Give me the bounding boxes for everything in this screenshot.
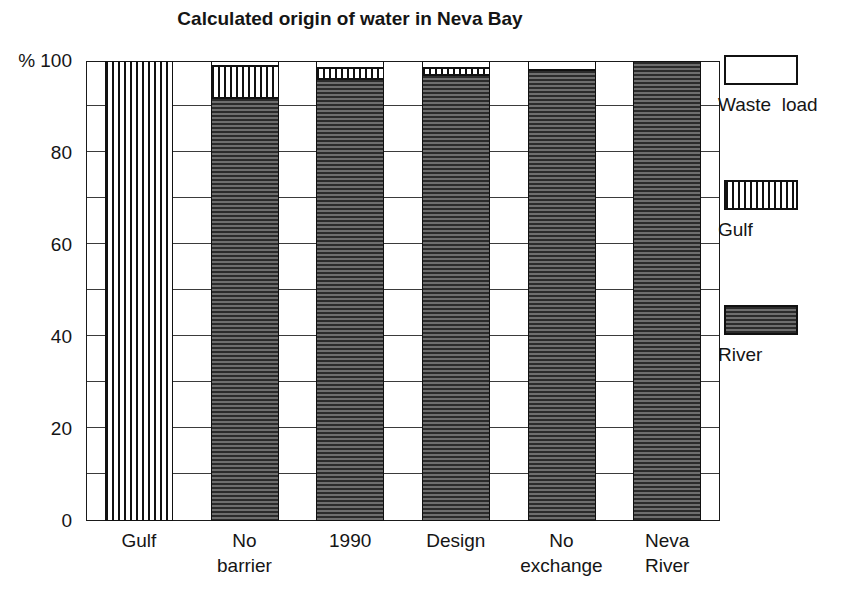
x-tick-line: No <box>192 528 298 553</box>
x-tick-line: Gulf <box>86 528 192 553</box>
legend-item-gulf[interactable]: Gulf <box>718 180 858 241</box>
legend-item-waste-load[interactable]: Waste load <box>718 55 858 116</box>
bar-1990[interactable] <box>316 61 384 521</box>
bar-segment-river <box>422 75 490 521</box>
legend-label: Waste load <box>718 94 858 116</box>
bar-segment-river <box>528 70 596 521</box>
x-tick-line: Neva <box>614 528 720 553</box>
bar-segment-gulf <box>316 68 384 80</box>
bar-segment-waste-load <box>528 61 596 70</box>
y-tick-label-60: 60 <box>51 234 72 256</box>
legend-label: Gulf <box>718 219 858 241</box>
bar-segment-river <box>633 61 701 521</box>
y-tick-label-20: 20 <box>51 418 72 440</box>
bar-neva-river[interactable] <box>633 61 701 521</box>
x-tick-label-design: Design <box>403 528 509 553</box>
chart-title: Calculated origin of water in Neva Bay <box>0 8 700 30</box>
bar-segment-gulf <box>105 61 173 521</box>
y-axis: 020406080% 100 <box>0 61 80 521</box>
bar-segment-waste-load <box>316 61 384 68</box>
y-tick-label-100: % 100 <box>18 50 72 72</box>
legend-item-river[interactable]: River <box>718 305 858 366</box>
legend-label: River <box>718 344 858 366</box>
legend: Waste loadGulfRiver <box>718 55 858 375</box>
legend-swatch-waste-load <box>724 55 798 85</box>
bar-segment-river <box>211 98 279 521</box>
bar-no-exchange[interactable] <box>528 61 596 521</box>
y-tick-label-40: 40 <box>51 326 72 348</box>
x-tick-line: exchange <box>509 553 615 578</box>
bar-segment-waste-load <box>211 61 279 66</box>
x-axis: GulfNobarrier1990DesignNoexchangeNevaRiv… <box>86 528 720 598</box>
x-tick-line: barrier <box>192 553 298 578</box>
x-tick-line: Design <box>403 528 509 553</box>
bar-design[interactable] <box>422 61 490 521</box>
legend-swatch-gulf <box>724 180 798 210</box>
x-tick-label-gulf: Gulf <box>86 528 192 553</box>
x-tick-line: No <box>509 528 615 553</box>
bar-segment-river <box>316 79 384 521</box>
x-tick-line: 1990 <box>297 528 403 553</box>
x-tick-line: River <box>614 553 720 578</box>
bar-no-barrier[interactable] <box>211 61 279 521</box>
y-tick-label-80: 80 <box>51 142 72 164</box>
bar-segment-waste-load <box>422 61 490 68</box>
x-tick-label-1990: 1990 <box>297 528 403 553</box>
x-tick-label-neva-river: NevaRiver <box>614 528 720 578</box>
bar-segment-gulf <box>211 66 279 98</box>
x-tick-label-no-barrier: Nobarrier <box>192 528 298 578</box>
legend-swatch-river <box>724 305 798 335</box>
bar-gulf[interactable] <box>105 61 173 521</box>
bar-segment-gulf <box>422 68 490 75</box>
x-tick-label-no-exchange: Noexchange <box>509 528 615 578</box>
bars-layer <box>86 61 720 521</box>
y-tick-label-0: 0 <box>61 510 72 532</box>
